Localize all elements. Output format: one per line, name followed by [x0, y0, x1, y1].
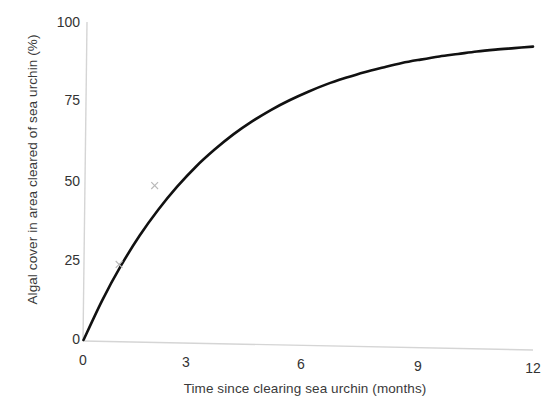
data-point-markers: [116, 182, 158, 268]
chart-figure: Algal cover in area cleared of sea urchi…: [0, 0, 553, 418]
x-axis-line: [83, 341, 533, 350]
plot-area: [0, 0, 553, 418]
data-point-marker: [151, 182, 158, 189]
data-series-curve: [84, 47, 534, 340]
y-axis-line: [83, 22, 87, 341]
